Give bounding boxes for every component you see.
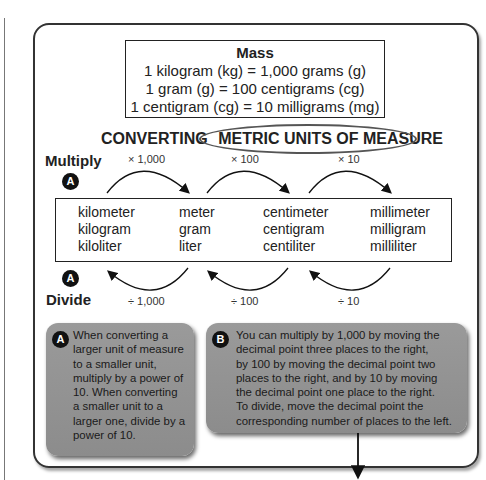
unit-gram: gram: [179, 221, 215, 238]
unit-centigram: centigram: [263, 221, 328, 238]
callout-a-text: When converting a larger unit of measure…: [73, 328, 185, 442]
callout-b-text: You can multiply by 1,000 by moving the …: [236, 328, 452, 428]
unit-kilogram: kilogram: [78, 221, 135, 238]
callout-a: A When converting a larger unit of measu…: [46, 323, 194, 456]
unit-kiloliter: kiloliter: [78, 238, 135, 255]
unit-centimeter: centimeter: [263, 204, 328, 221]
badge-a-icon: A: [52, 331, 69, 348]
units-column-centi: centimeter centigram centiliter: [263, 204, 328, 255]
unit-milligram: milligram: [370, 221, 430, 238]
unit-milliliter: milliliter: [370, 238, 430, 255]
unit-centiliter: centiliter: [263, 238, 328, 255]
callout-b: B You can multiply by 1,000 by moving th…: [206, 323, 467, 433]
badge-a-icon: A: [62, 270, 79, 287]
units-column-base: meter gram liter: [179, 204, 215, 255]
badge-b-icon: B: [212, 331, 229, 348]
divide-label: Divide: [46, 291, 91, 308]
divide-factor: ÷ 10: [338, 295, 359, 307]
units-column-kilo: kilometer kilogram kiloliter: [78, 204, 135, 255]
unit-meter: meter: [179, 204, 215, 221]
divide-factor: ÷ 100: [231, 295, 258, 307]
divide-factor: ÷ 1,000: [128, 295, 165, 307]
unit-millimeter: millimeter: [370, 204, 430, 221]
units-table: kilometer kilogram kiloliter meter gram …: [55, 198, 452, 262]
unit-kilometer: kilometer: [78, 204, 135, 221]
units-column-milli: millimeter milligram milliliter: [370, 204, 430, 255]
unit-liter: liter: [179, 238, 215, 255]
